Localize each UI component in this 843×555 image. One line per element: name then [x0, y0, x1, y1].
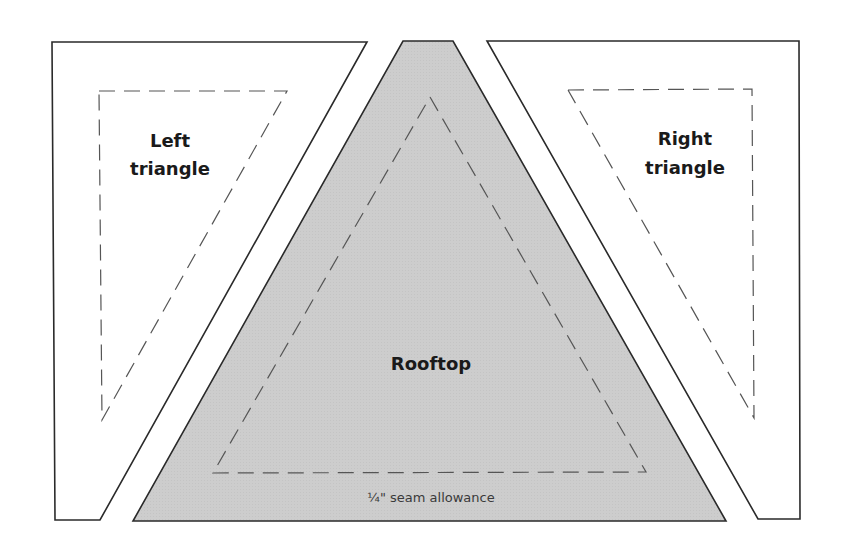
right-label-line2: triangle	[645, 157, 725, 178]
left-label-line2: triangle	[130, 158, 210, 179]
quilt-block-diagram: Left triangle Rooftop ¼" seam allowance …	[0, 0, 843, 555]
rooftop-label: Rooftop	[391, 353, 471, 374]
left-label-line1: Left	[150, 130, 191, 151]
right-label-line1: Right	[658, 128, 713, 149]
seam-allowance-note: ¼" seam allowance	[367, 490, 494, 505]
